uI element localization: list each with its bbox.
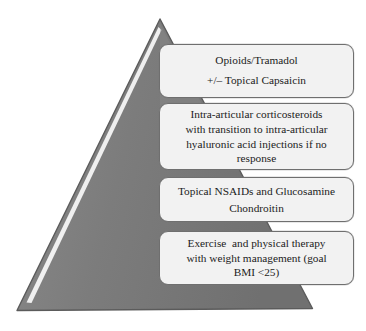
pyramid-tier-exercise-weight-management[interactable]: Exercise and physical therapy with weigh…	[159, 231, 354, 285]
pyramid-tier-opioids-tramadol[interactable]: Opioids/Tramadol +/– Topical Capsaicin	[159, 44, 354, 98]
pyramid-tier-topical-nsaids-glucosamine[interactable]: Topical NSAIDs and Glucosamine Chondroit…	[159, 177, 354, 222]
tier-3-line-2: Chondroitin	[229, 200, 284, 216]
treatment-pyramid-diagram: Opioids/Tramadol +/– Topical Capsaicin I…	[0, 0, 366, 331]
tier-1-line-1: Opioids/Tramadol	[215, 51, 297, 71]
tier-2-line-4: response	[237, 151, 277, 166]
pyramid-tier-stack: Opioids/Tramadol +/– Topical Capsaicin I…	[159, 0, 354, 331]
tier-2-line-3: hyaluronic acid injections if no	[186, 137, 327, 152]
tier-4-line-3: BMI <25)	[234, 265, 280, 280]
tier-1-line-2: +/– Topical Capsaicin	[207, 71, 306, 91]
tier-4-line-2: with weight management (goal	[186, 251, 326, 266]
tier-4-line-1: Exercise and physical therapy	[187, 236, 325, 251]
tier-2-line-1: Intra-articular corticosteroids	[190, 107, 322, 122]
pyramid-tier-intra-articular-injections[interactable]: Intra-articular corticosteroids with tra…	[159, 103, 354, 170]
tier-2-line-2: with transition to intra-articular	[185, 122, 327, 137]
tier-3-line-1: Topical NSAIDs and Glucosamine	[178, 183, 335, 199]
